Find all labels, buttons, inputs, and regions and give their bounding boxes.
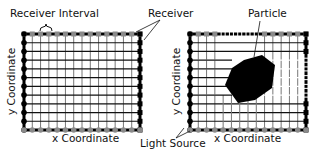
left-light-source [21, 101, 27, 107]
top-receiver [113, 32, 118, 37]
right-receiver-dark [305, 76, 308, 79]
bottom-light-source [21, 127, 27, 133]
left-light-source [187, 49, 193, 55]
right-receiver-dark [305, 94, 308, 97]
left-light-source [21, 110, 27, 116]
x-axis-label-right: x Coordinate [214, 132, 281, 144]
top-receiver [38, 32, 43, 37]
left-light-source [187, 66, 193, 72]
light-source-label: Light Source [140, 137, 206, 149]
top-receiver [104, 32, 109, 37]
bottom-light-source [121, 127, 127, 133]
bottom-light-source [204, 127, 210, 133]
left-light-source [187, 57, 193, 63]
right-receiver-dark [305, 67, 308, 70]
top-receiver [129, 32, 134, 37]
bottom-light-source [46, 127, 52, 133]
bottom-light-source [38, 127, 44, 133]
left-light-source [187, 101, 193, 107]
right-receiver [138, 84, 143, 89]
bottom-light-source [287, 127, 293, 133]
top-receiver [196, 32, 201, 37]
top-receiver [30, 32, 35, 37]
y-axis-label-right: y Coordinate [170, 48, 182, 115]
top-receiver [279, 32, 284, 37]
right-receiver [304, 110, 309, 115]
right-receiver-dark [305, 59, 308, 62]
left-light-source [187, 75, 193, 81]
left-light-source [187, 31, 193, 37]
bottom-light-source [129, 127, 135, 133]
right-receiver [138, 75, 143, 80]
top-receiver-dark [238, 33, 241, 36]
left-light-source [21, 75, 27, 81]
right-receiver [138, 110, 143, 115]
receiver-interval-brace [40, 24, 52, 31]
top-receiver [46, 32, 51, 37]
left-light-source [21, 57, 27, 63]
receiver-label: Receiver [148, 7, 194, 19]
top-receiver [295, 32, 300, 37]
left-grid-panel [21, 31, 143, 133]
top-receiver [55, 32, 60, 37]
top-receiver [121, 32, 126, 37]
top-receiver [88, 32, 93, 37]
top-receiver [270, 32, 275, 37]
right-receiver [138, 49, 143, 54]
receiver-pointer-1 [136, 20, 160, 32]
left-light-source [21, 92, 27, 98]
bottom-light-source [29, 127, 35, 133]
right-receiver [138, 119, 143, 124]
left-light-source [187, 40, 193, 46]
right-receiver-dark [305, 85, 308, 88]
right-receiver [304, 32, 309, 37]
left-light-source [21, 66, 27, 72]
left-light-source [187, 110, 193, 116]
top-receiver [71, 32, 76, 37]
right-receiver [304, 40, 309, 45]
receiver-pointer-2 [144, 20, 160, 40]
top-receiver [287, 32, 292, 37]
top-receiver [96, 32, 101, 37]
top-receiver [80, 32, 85, 37]
right-receiver [138, 40, 143, 45]
bottom-light-source [137, 127, 143, 133]
left-light-source [21, 40, 27, 46]
left-light-source [21, 31, 27, 37]
right-receiver [304, 119, 309, 124]
right-receiver [138, 58, 143, 63]
right-receiver [304, 101, 309, 106]
bottom-light-source [195, 127, 201, 133]
receiver-interval-label: Receiver Interval [10, 7, 99, 19]
y-axis-label-left: y Coordinate [5, 48, 17, 115]
top-receiver-dark [230, 33, 233, 36]
bottom-light-source [303, 127, 309, 133]
top-receiver [204, 32, 209, 37]
left-light-source [187, 84, 193, 90]
right-receiver [138, 93, 143, 98]
top-receiver-dark [222, 33, 225, 36]
left-light-source [187, 92, 193, 98]
particle-label: Particle [248, 7, 287, 19]
left-light-source [21, 49, 27, 55]
top-receiver-dark [247, 33, 250, 36]
right-receiver [304, 49, 309, 54]
particle-shape [225, 55, 275, 103]
left-light-source [187, 118, 193, 124]
top-receiver [262, 32, 267, 37]
right-receiver [138, 101, 143, 106]
right-receiver [138, 32, 143, 37]
left-light-source [21, 118, 27, 124]
top-receiver [63, 32, 68, 37]
bottom-light-source [295, 127, 301, 133]
right-receiver [138, 66, 143, 71]
light-grid-diagram: Receiver IntervalReceiverParticleLight S… [0, 0, 314, 154]
top-receiver [212, 32, 217, 37]
left-light-source [21, 84, 27, 90]
x-axis-label-left: x Coordinate [52, 132, 119, 144]
